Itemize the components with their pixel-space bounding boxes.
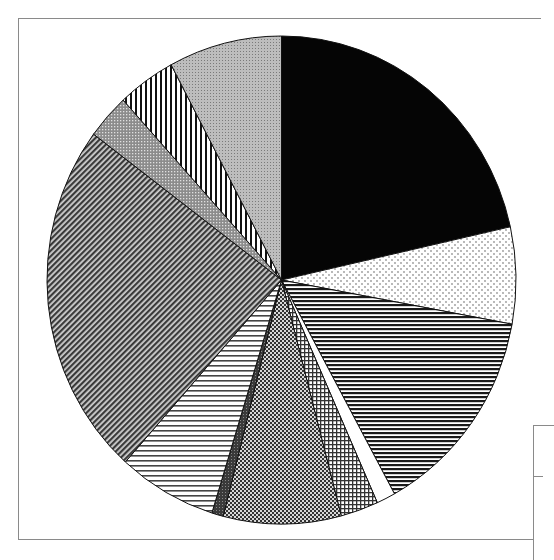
pie-slices xyxy=(47,36,516,524)
legend-box xyxy=(533,425,554,560)
legend-divider xyxy=(533,476,543,477)
